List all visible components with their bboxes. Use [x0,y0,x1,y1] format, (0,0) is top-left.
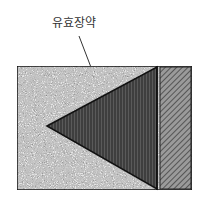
charge-diagram [0,0,205,204]
right-strip [160,67,191,189]
